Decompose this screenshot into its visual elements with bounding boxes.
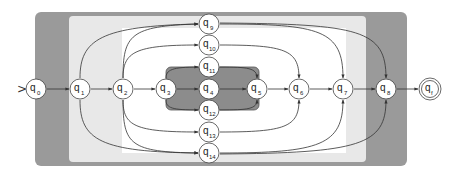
node-q7: q 7: [333, 79, 353, 99]
node-q11: q 11: [199, 57, 219, 77]
node-label: q: [30, 82, 36, 93]
node-label: q: [251, 82, 257, 93]
node-subscript: 12: [209, 111, 216, 117]
node-label: q: [337, 82, 343, 93]
node-label: q: [74, 82, 80, 93]
node-q12: q 12: [199, 100, 219, 120]
node-q10: q 10: [199, 35, 219, 55]
node-q14: q 14: [199, 143, 219, 163]
node-label: q: [293, 82, 299, 93]
node-q3: q 3: [156, 79, 176, 99]
node-label: q: [160, 82, 166, 93]
node-subscript: 10: [209, 46, 216, 52]
node-subscript: 14: [209, 154, 216, 160]
node-q9: q 9: [199, 14, 219, 34]
node-label: q: [203, 38, 209, 49]
node-q8: q 8: [376, 79, 396, 99]
node-q0: q 0: [26, 79, 46, 99]
node-qf-accepting: q f: [419, 78, 441, 100]
node-label: q: [380, 82, 386, 93]
node-q4: q 4: [199, 79, 219, 99]
node-q2: q 2: [113, 79, 133, 99]
node-q13: q 13: [199, 122, 219, 142]
node-label: q: [203, 125, 209, 136]
node-subscript: 11: [209, 68, 216, 74]
node-label: q: [203, 146, 209, 157]
node-q5: q 5: [247, 79, 267, 99]
node-q1: q 1: [70, 79, 90, 99]
node-label: q: [203, 17, 209, 28]
node-q6: q 6: [289, 79, 309, 99]
node-label: q: [117, 82, 123, 93]
automaton-diagram: > q 0 q 1 q 2 q 3 q 4 q 5 q 6 q 7: [0, 0, 459, 175]
node-label: q: [203, 103, 209, 114]
node-label: q: [425, 82, 431, 93]
node-label: q: [203, 60, 209, 71]
start-marker: >: [17, 82, 27, 96]
node-subscript: 13: [209, 133, 216, 139]
node-label: q: [203, 82, 209, 93]
